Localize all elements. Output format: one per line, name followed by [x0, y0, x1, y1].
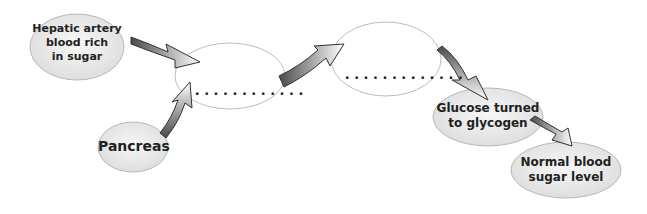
label-line: in sugar: [30, 50, 124, 64]
blank-answer-1: ............: [193, 82, 306, 98]
label-line: blood rich: [30, 36, 124, 50]
label-line: to glycogen: [433, 116, 543, 131]
arrow-pancreas-to-blank1: [160, 82, 192, 138]
label-line: Pancreas: [98, 138, 168, 156]
label-line: Normal blood: [511, 155, 621, 170]
label-line: sugar level: [511, 170, 621, 185]
label-normal-blood-sugar: Normal blood sugar level: [511, 155, 621, 185]
label-glucose: Glucose turned to glycogen: [433, 101, 543, 131]
blank-answer-2: .............: [343, 66, 466, 82]
label-line: Glucose turned: [433, 101, 543, 116]
label-line: Hepatic artery: [30, 22, 124, 36]
node-blank-2: [331, 22, 441, 96]
arrow-hepatic-to-blank1: [131, 37, 200, 68]
label-hepatic-artery: Hepatic artery blood rich in sugar: [30, 22, 124, 63]
label-pancreas: Pancreas: [98, 138, 168, 156]
